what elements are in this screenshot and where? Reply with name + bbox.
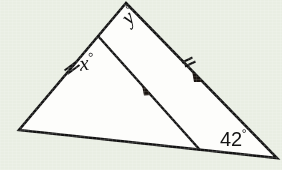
angle-label-42-degree: °: [242, 127, 247, 141]
angle-label-42-value: 42: [220, 128, 242, 150]
angle-label-x: x°: [78, 50, 95, 75]
angle-label-42: 42°: [220, 128, 246, 149]
geometry-figure: x° y° 42°: [0, 0, 282, 170]
